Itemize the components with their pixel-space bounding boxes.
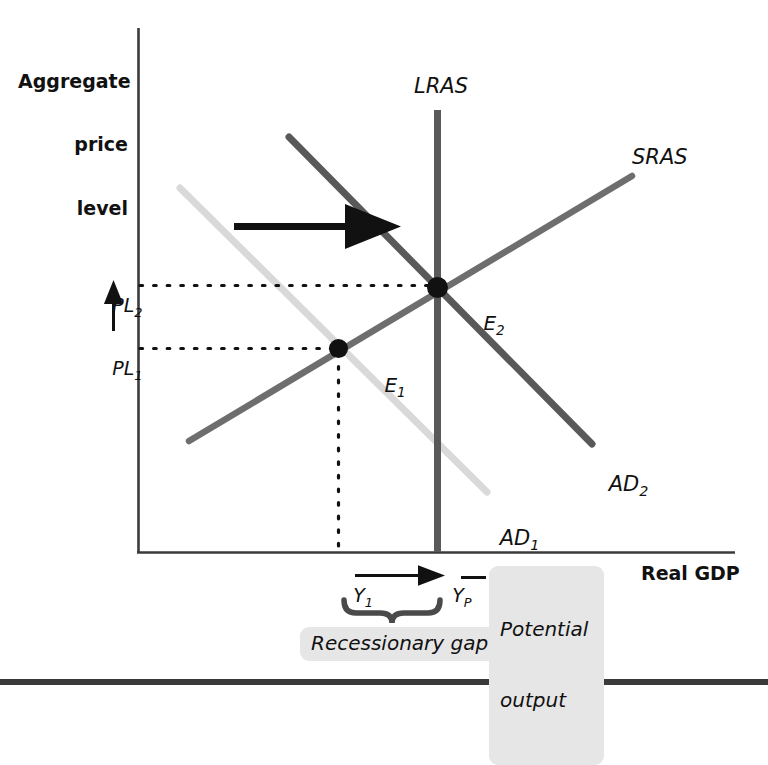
- ad2-curve-label-sub: 2: [639, 483, 648, 499]
- potential-output-line-1: Potential: [500, 618, 593, 642]
- yp-tick-label: YP: [428, 562, 472, 632]
- potential-output-line-2: output: [500, 689, 593, 713]
- e2-point-label-sub: 2: [496, 322, 505, 338]
- y-axis-title-line-3: level: [18, 198, 128, 219]
- e2-point-label: E2: [458, 287, 505, 362]
- y-axis-title-line-1: Aggregate: [18, 71, 128, 92]
- pl1-tick-label-text: PL: [112, 357, 134, 379]
- pl2-tick-label: PL2: [88, 272, 142, 342]
- ad2-curve-label: AD2: [582, 448, 648, 523]
- e1-point-label-text: E: [384, 373, 397, 397]
- y1-tick-label-text: Y: [353, 584, 365, 606]
- recessionary-gap-callout: Recessionary gap: [300, 627, 499, 661]
- sras-curve-label: SRAS: [632, 145, 688, 169]
- point-e2: [427, 277, 448, 298]
- y1-tick-label-sub: 1: [365, 595, 373, 610]
- pl1-tick-label: PL1: [88, 335, 142, 405]
- e1-point-label-sub: 1: [397, 384, 406, 400]
- yp-tick-label-sub: P: [464, 595, 472, 610]
- pl2-tick-label-sub: 2: [134, 305, 142, 320]
- y-axis-title: Aggregate price level: [18, 28, 128, 262]
- pl2-tick-label-text: PL: [112, 294, 134, 316]
- ad1-curve-label-sub: 1: [530, 537, 539, 553]
- y1-tick-label: Y1: [329, 562, 373, 632]
- pl1-tick-label-sub: 1: [134, 368, 142, 383]
- x-axis-title: Real GDP: [641, 563, 740, 584]
- yp-tick-label-text: Y: [452, 584, 464, 606]
- lras-curve-label: LRAS: [414, 74, 468, 98]
- e2-point-label-text: E: [483, 311, 496, 335]
- e1-point-label: E1: [359, 349, 406, 424]
- potential-output-callout: Potential output: [489, 566, 604, 765]
- ad1-curve-label-text: AD: [500, 526, 531, 550]
- point-e1: [329, 339, 348, 358]
- curve-sras: [189, 176, 632, 441]
- ad2-curve-label-text: AD: [609, 472, 640, 496]
- equilibrium-points: [329, 277, 448, 358]
- y-axis-title-line-2: price: [18, 134, 128, 155]
